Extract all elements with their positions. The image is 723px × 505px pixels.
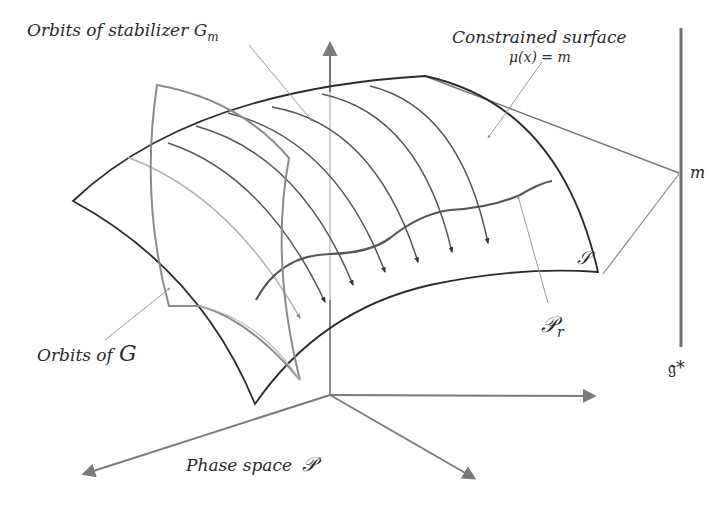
orbits-of-g-label: Orbits ofG	[37, 341, 136, 366]
orbit-curve-faint	[127, 157, 300, 318]
symplectic-reduction-diagram: Orbits of stabilizer Gm Constrained surf…	[0, 0, 723, 505]
momentum-map-projection	[425, 76, 679, 274]
phase-space-axes	[84, 44, 594, 478]
leader-orbits-g	[105, 288, 170, 340]
reduced-space-label: 𝒫r	[541, 312, 565, 340]
orbit-of-g-surface	[151, 85, 300, 380]
orbit-curve	[168, 143, 325, 302]
orbit-curve	[322, 94, 452, 252]
constrained-surface-label: Constrained surface	[452, 27, 627, 47]
leader-constrained	[488, 62, 542, 138]
axis-right	[330, 395, 594, 396]
reduced-space-curve	[256, 181, 552, 300]
leader-stabilizer	[249, 45, 312, 121]
momentum-equation-label: μ(x) = m	[509, 49, 571, 65]
orbit-of-g-lower-edge	[200, 306, 300, 380]
leader-lines	[105, 45, 548, 340]
stabilizer-orbits-label: Orbits of stabilizer Gm	[27, 20, 219, 44]
dual-algebra-label: 𝔤*	[668, 357, 685, 378]
axis-down-right	[330, 395, 474, 478]
orbit-curve	[370, 86, 488, 243]
projection-line-top	[425, 76, 679, 173]
leader-reduced	[518, 196, 548, 303]
projection-line-bottom	[603, 174, 679, 274]
stabilizer-orbit-curves	[127, 86, 488, 318]
phase-space-label: Phase space𝒫	[185, 452, 322, 476]
orbit-curve	[272, 107, 418, 262]
point-m-label: m	[690, 163, 705, 182]
